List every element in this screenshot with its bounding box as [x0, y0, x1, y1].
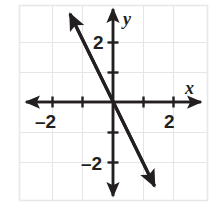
- y-axis-label: y: [121, 9, 132, 29]
- x-tick-label-minus-2: –2: [35, 111, 56, 132]
- y-tick-label-minus-2: –2: [81, 153, 102, 174]
- coordinate-plane-svg: x y –2 2 2 –2: [0, 0, 219, 209]
- graph-figure: x y –2 2 2 –2: [0, 0, 219, 209]
- plot-background: [0, 0, 219, 209]
- x-tick-label-2: 2: [164, 111, 175, 132]
- y-tick-label-2: 2: [93, 32, 104, 53]
- x-axis-label: x: [184, 78, 194, 98]
